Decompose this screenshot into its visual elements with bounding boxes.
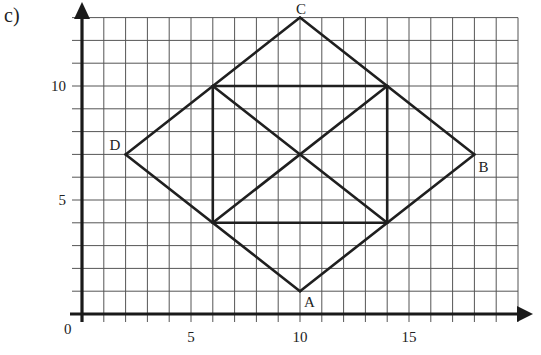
vertex-label-b: B — [478, 159, 488, 175]
labels: 051015510ABCD — [51, 1, 488, 345]
vertex-label-c: C — [296, 1, 306, 17]
y-tick-label: 10 — [51, 78, 66, 94]
y-axis-arrow-icon — [74, 2, 90, 19]
x-tick-label: 10 — [293, 329, 308, 345]
x-tick-label: 15 — [402, 329, 417, 345]
y-tick-label: 5 — [59, 192, 67, 208]
origin-label: 0 — [64, 321, 72, 337]
vertex-label-d: D — [110, 137, 121, 153]
x-tick-label: 5 — [187, 329, 195, 345]
vertex-label-a: A — [304, 294, 315, 310]
coordinate-diagram: 051015510ABCD — [0, 0, 541, 355]
x-axis-arrow-icon — [517, 306, 533, 322]
grid-lines — [72, 18, 518, 322]
